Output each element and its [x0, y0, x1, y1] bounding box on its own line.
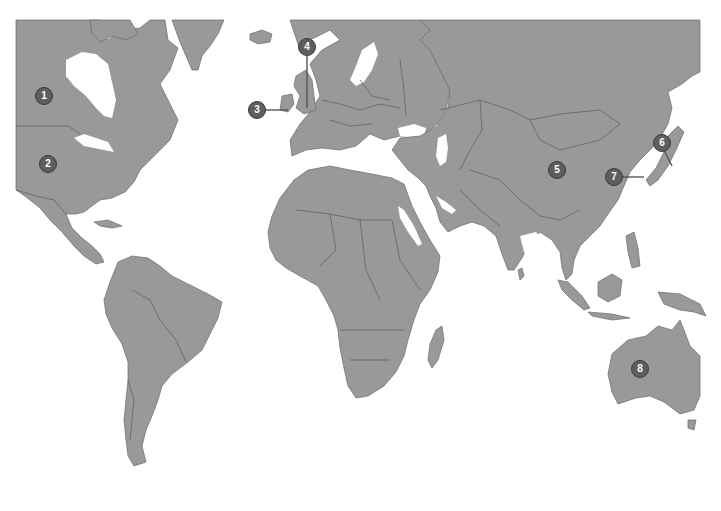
world-map: 1 2 3 4 5 6 7 8 — [0, 0, 721, 511]
landmass-madagascar — [428, 326, 444, 368]
landmass-iceland — [250, 30, 272, 44]
landmass-tasmania — [688, 420, 696, 430]
landmass-africa — [268, 166, 440, 398]
map-marker-3[interactable]: 3 — [248, 101, 266, 119]
map-marker-4[interactable]: 4 — [298, 38, 316, 56]
bay-of-bengal — [520, 232, 546, 262]
landmass-australia — [608, 320, 700, 414]
map-marker-2[interactable]: 2 — [39, 155, 57, 173]
map-marker-8[interactable]: 8 — [631, 360, 649, 378]
landmass-java — [588, 312, 630, 320]
map-marker-7[interactable]: 7 — [605, 168, 623, 186]
landmass-philippines — [626, 232, 640, 268]
landmass-new-guinea — [658, 292, 706, 316]
map-marker-1[interactable]: 1 — [35, 87, 53, 105]
landmass-south-america — [104, 256, 222, 466]
landmass-sri-lanka — [518, 268, 524, 280]
landmass-great-britain — [294, 70, 316, 114]
landmass-sumatra — [558, 280, 590, 310]
world-map-svg — [0, 0, 721, 511]
landmass-cuba — [94, 220, 122, 228]
map-marker-5[interactable]: 5 — [548, 161, 566, 179]
map-marker-6[interactable]: 6 — [653, 134, 671, 152]
landmass-borneo — [598, 274, 622, 302]
landmass-greenland — [172, 20, 224, 70]
